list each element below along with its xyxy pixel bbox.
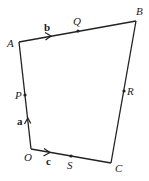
label-R: R: [126, 85, 134, 97]
label-O: O: [24, 151, 32, 163]
label-P: P: [14, 89, 22, 101]
point-Q: [76, 29, 79, 32]
point-R: [122, 89, 125, 92]
label-A: A: [6, 37, 14, 49]
label-C: C: [115, 162, 123, 174]
point-S: [69, 154, 72, 157]
label-S: S: [67, 159, 73, 171]
point-P: [23, 93, 26, 96]
vector-label-a: a: [17, 115, 23, 127]
label-B: B: [136, 5, 143, 17]
label-Q: Q: [73, 15, 81, 27]
vector-diagram: O A B C P Q R S a b c: [0, 0, 149, 181]
vector-label-b: b: [44, 21, 50, 33]
vector-label-c: c: [46, 155, 51, 167]
